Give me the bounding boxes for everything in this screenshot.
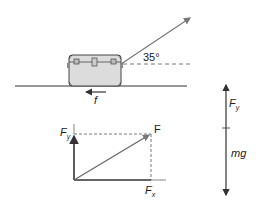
vertical-fy-label: Fy xyxy=(229,97,240,112)
fx-label: Fx xyxy=(145,184,156,198)
friction-label: f xyxy=(94,94,98,106)
component-diagram: F Fx Fy xyxy=(60,123,166,198)
resultant-label: F xyxy=(154,123,161,135)
vertical-forces: Fy mg xyxy=(222,85,247,195)
resultant-arrow xyxy=(74,135,149,180)
mg-label: mg xyxy=(231,147,247,159)
suitcase xyxy=(67,55,123,86)
force-diagram: 35° f F Fx Fy Fy mg xyxy=(0,0,261,206)
fy-label: Fy xyxy=(60,126,71,141)
angle-label: 35° xyxy=(143,51,160,63)
scene: 35° f xyxy=(15,18,193,106)
